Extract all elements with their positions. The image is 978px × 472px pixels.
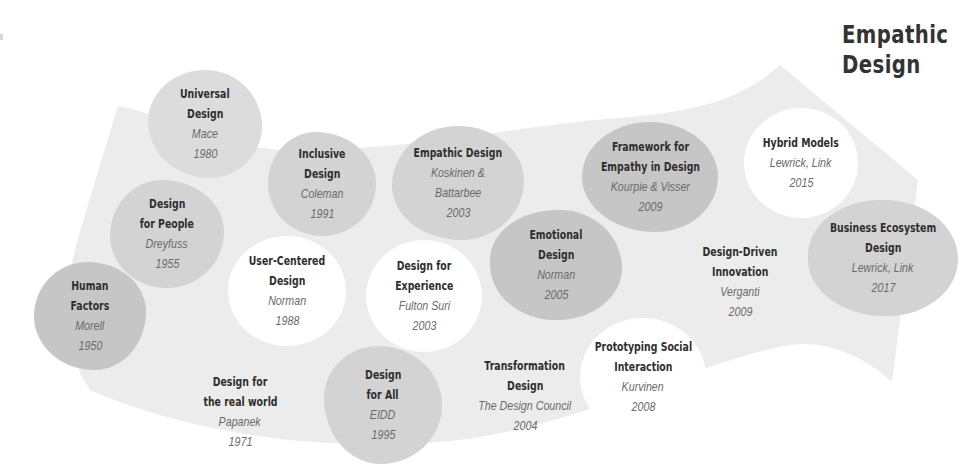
- milestone-year: 2009: [638, 197, 662, 217]
- milestone-title: Emotional: [530, 225, 583, 245]
- milestone-author: Fulton Suri: [398, 296, 450, 316]
- milestone-title: Design: [304, 164, 340, 184]
- milestone-title: Design: [865, 238, 901, 258]
- milestone-title: Factors: [71, 296, 110, 316]
- milestone-year: 2003: [446, 203, 470, 223]
- edge-mark: [0, 34, 3, 40]
- milestone-year: 2003: [412, 316, 436, 336]
- milestone-design-for-the-real-world: Design for the real world Papanek 1971: [184, 360, 296, 464]
- milestone-year: 1971: [228, 432, 252, 452]
- diagram-title: Empathic Design: [842, 20, 949, 80]
- milestone-transformation-design: Transformation Design The Design Council…: [462, 346, 588, 446]
- milestone-title: Empathic Design: [414, 143, 503, 163]
- milestone-title: for People: [140, 214, 194, 234]
- milestone-year: 1995: [371, 425, 395, 445]
- milestone-year: 2008: [631, 397, 655, 417]
- milestone-author: Battarbee: [435, 183, 481, 203]
- milestone-year: 2004: [513, 416, 537, 436]
- milestone-title: Innovation: [712, 262, 768, 282]
- milestone-year: 1950: [78, 336, 102, 356]
- milestone-title: Design for: [397, 256, 452, 276]
- milestone-design-for-people: Design for People Dreyfuss 1955: [110, 180, 224, 288]
- milestone-title: Design: [538, 245, 574, 265]
- milestone-human-factors: Human Factors Morell 1950: [34, 262, 146, 370]
- milestone-title: Design: [187, 104, 223, 124]
- milestone-author: Verganti: [720, 282, 759, 302]
- milestone-title: the real world: [203, 392, 277, 412]
- milestone-title: Design: [507, 376, 543, 396]
- milestone-framework-for-empathy-in-design: Framework for Empathy in Design Kourpie …: [582, 122, 718, 232]
- milestone-hybrid-models: Hybrid Models Lewrick, Link 2015: [744, 108, 858, 218]
- milestone-author: Lewrick, Link: [770, 153, 832, 173]
- milestone-author: Lewrick, Link: [852, 258, 914, 278]
- milestone-title: Experience: [395, 276, 453, 296]
- milestone-year: 2005: [544, 285, 568, 305]
- milestone-title: Inclusive: [299, 144, 346, 164]
- milestone-author: Dreyfuss: [146, 234, 188, 254]
- milestone-title: for All: [367, 385, 399, 405]
- milestone-year: 1955: [155, 254, 179, 274]
- milestone-design-for-experience: Design for Experience Fulton Suri 2003: [366, 240, 482, 352]
- milestone-year: 2017: [871, 278, 895, 298]
- milestone-design-driven-innovation: Design-Driven Innovation Verganti 2009: [684, 232, 796, 332]
- milestone-title: Design: [269, 271, 305, 291]
- milestone-title: Design: [365, 365, 401, 385]
- milestone-year: 1988: [275, 311, 299, 331]
- milestone-title: Design-Driven: [703, 242, 778, 262]
- milestone-title: Empathy in Design: [600, 157, 699, 177]
- milestone-emotional-design: Emotional Design Norman 2005: [490, 210, 622, 320]
- milestone-author: EIDD: [370, 405, 395, 425]
- milestone-title: User-Centered: [249, 251, 325, 271]
- milestone-author: Kourpie & Visser: [610, 177, 689, 197]
- milestone-author: Morell: [75, 316, 104, 336]
- milestone-title: Design: [149, 194, 185, 214]
- milestone-title: Framework for: [611, 137, 688, 157]
- milestone-author: Koskinen &: [431, 163, 485, 183]
- milestone-title: Human: [71, 276, 108, 296]
- milestone-design-for-all: Design for All EIDD 1995: [324, 346, 442, 464]
- milestone-year: 2009: [728, 302, 752, 322]
- milestone-prototyping-social-interaction: Prototyping Social Interaction Kurvinen …: [580, 318, 706, 436]
- milestone-title: Transformation: [485, 356, 565, 376]
- empathic-design-timeline-diagram: Empathic Design Human Factors Morell 195…: [0, 0, 978, 472]
- milestone-author: Norman: [268, 291, 306, 311]
- milestone-user-centered-design: User-Centered Design Norman 1988: [228, 236, 346, 346]
- milestone-title: Business Ecosystem: [830, 218, 936, 238]
- milestone-title: Interaction: [614, 357, 672, 377]
- milestone-title: Prototyping Social: [594, 337, 691, 357]
- milestone-year: 1991: [310, 204, 334, 224]
- milestone-author: Coleman: [301, 184, 344, 204]
- milestone-title: Design for: [213, 372, 268, 392]
- milestone-author: The Design Council: [478, 396, 571, 416]
- milestone-title: Hybrid Models: [763, 133, 839, 153]
- milestone-author: Kurvinen: [622, 377, 664, 397]
- milestone-business-ecosystem-design: Business Ecosystem Design Lewrick, Link …: [808, 200, 958, 316]
- milestone-title: Universal: [180, 84, 230, 104]
- title-line-1: Empathic: [842, 20, 949, 50]
- milestone-empathic-design: Empathic Design Koskinen & Battarbee 200…: [392, 126, 524, 240]
- milestone-year: 1980: [193, 144, 217, 164]
- title-line-2: Design: [842, 50, 949, 80]
- milestone-inclusive-design: Inclusive Design Coleman 1991: [268, 132, 376, 236]
- milestone-author: Mace: [192, 124, 218, 144]
- milestone-year: 2015: [789, 173, 813, 193]
- milestone-author: Norman: [537, 265, 575, 285]
- milestone-author: Papanek: [219, 412, 261, 432]
